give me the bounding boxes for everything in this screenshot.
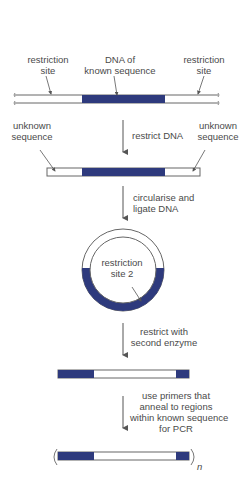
label-line: restriction [96, 257, 148, 268]
label-line: unknown [196, 120, 240, 131]
inverted-fragment [58, 370, 189, 378]
label-restrict-second-enzyme: restrict with second enzyme [130, 326, 198, 348]
pointer-known [114, 76, 117, 95]
label-line: restrict with [130, 326, 198, 337]
label-restriction-site-left: restriction site [20, 54, 76, 76]
label-unknown-left: unknown sequence [10, 120, 54, 142]
genomic-dna [14, 93, 219, 105]
pcr-product [54, 449, 194, 465]
label-unknown-right: unknown sequence [196, 120, 240, 142]
label-line: sequence [196, 131, 240, 142]
label-line: site [176, 65, 232, 76]
label-circularise: circularise and ligate DNA [133, 192, 194, 214]
label-line: circularise and [133, 192, 194, 203]
pointer-right-site [198, 76, 204, 94]
label-line: restriction [20, 54, 76, 65]
label-line: sequence [10, 131, 54, 142]
label-multiplier-n: n [197, 461, 202, 472]
label-line: site [20, 65, 76, 76]
label-known-sequence: DNA of known sequence [80, 54, 160, 76]
label-line: second enzyme [130, 337, 198, 348]
label-line: anneal to regions [130, 401, 222, 412]
label-line: site 2 [96, 268, 148, 279]
label-line: ligate DNA [133, 203, 194, 214]
label-line: restriction [176, 54, 232, 65]
pointer-left-site [46, 76, 51, 94]
label-line: unknown [10, 120, 54, 131]
label-restrict-dna: restrict DNA [132, 130, 183, 141]
label-line: DNA of [80, 54, 160, 65]
label-restriction-site-right: restriction site [176, 54, 232, 76]
label-line: within known sequence [130, 412, 222, 423]
label-pcr-primers: use primers that anneal to regions withi… [130, 390, 222, 434]
label-restriction-site-2: restriction site 2 [96, 257, 148, 279]
label-line: for PCR [130, 423, 222, 434]
restricted-fragment [47, 168, 200, 176]
label-line: known sequence [80, 65, 160, 76]
label-line: use primers that [130, 390, 222, 401]
